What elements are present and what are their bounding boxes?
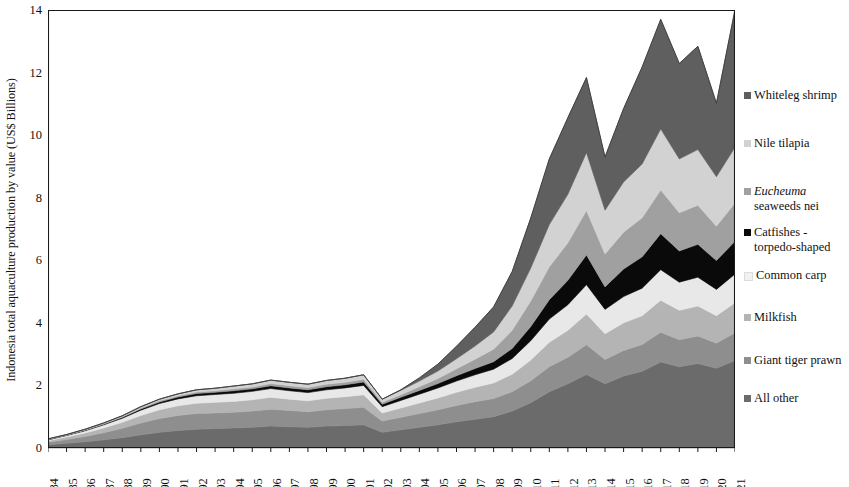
legend-item-label: Milkfish xyxy=(754,310,849,325)
legend-item-whiteleg-shrimp[interactable]: Whiteleg shrimp xyxy=(744,88,849,103)
legend-swatch-icon xyxy=(744,92,751,99)
y-axis-tick-0: 0 xyxy=(20,442,42,454)
legend-item-nile-tilapia[interactable]: Nile tilapia xyxy=(744,136,849,151)
aquaculture-stacked-area-figure: Indonesia total aquaculture production b… xyxy=(0,0,849,487)
y-axis-tick-2: 2 xyxy=(20,379,42,391)
legend-item-catfishes-torpedo-shaped[interactable]: Catfishes - torpedo-shaped xyxy=(744,225,849,254)
y-axis-tick-12: 12 xyxy=(20,67,42,79)
legend-item-label: All other xyxy=(754,391,849,406)
legend-item-label: Eucheuma seaweeds nei xyxy=(754,184,849,213)
y-axis-tick-10: 10 xyxy=(20,129,42,141)
legend-item-seaweeds-nei[interactable]: Eucheuma seaweeds nei xyxy=(744,184,849,213)
y-axis-tick-labels: 02468101214 xyxy=(16,0,42,487)
stacked-area-chart xyxy=(48,10,735,453)
legend-item-label: Whiteleg shrimp xyxy=(754,88,849,103)
legend-swatch-icon xyxy=(744,314,751,321)
legend-item-common-carp[interactable]: Common carp xyxy=(744,268,849,283)
legend-item-giant-tiger-prawn[interactable]: Giant tiger prawn xyxy=(744,353,849,368)
legend-swatch-icon xyxy=(744,357,751,364)
legend-item-label: Catfishes - torpedo-shaped xyxy=(754,225,849,254)
y-axis-tick-8: 8 xyxy=(20,192,42,204)
y-axis-tick-14: 14 xyxy=(20,4,42,16)
legend-item-label: Common carp xyxy=(756,268,849,283)
legend-swatch-icon xyxy=(744,395,751,402)
legend-swatch-icon xyxy=(744,140,751,147)
legend-item-all-other[interactable]: All other xyxy=(744,391,849,406)
legend-swatch-icon xyxy=(744,188,751,195)
y-axis-tick-6: 6 xyxy=(20,254,42,266)
plot-area xyxy=(48,10,735,448)
legend-swatch-icon xyxy=(744,229,751,236)
x-axis-tick-labels: 1984198519861987198819891990199119921993… xyxy=(48,452,735,487)
legend-item-milkfish[interactable]: Milkfish xyxy=(744,310,849,325)
y-axis-tick-4: 4 xyxy=(20,317,42,329)
chart-legend: Whiteleg shrimpNile tilapiaEucheuma seaw… xyxy=(744,88,849,408)
legend-swatch-icon xyxy=(744,272,753,281)
legend-item-label: Giant tiger prawn xyxy=(754,353,849,368)
legend-item-label: Nile tilapia xyxy=(754,136,849,151)
